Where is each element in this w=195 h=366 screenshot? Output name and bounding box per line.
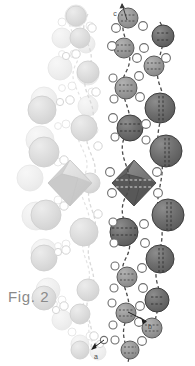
- linker-atom: [109, 321, 117, 329]
- linker-atom: [141, 239, 150, 248]
- light-linker: [66, 96, 74, 104]
- light-atom: [71, 115, 97, 141]
- linker-atom: [108, 299, 116, 307]
- light-linker: [62, 52, 69, 59]
- ghost-atom: [48, 56, 72, 80]
- linker-atom: [139, 22, 148, 31]
- linker-atom: [136, 93, 145, 102]
- medium-atom: [144, 56, 164, 76]
- dark-atom: [145, 288, 169, 312]
- linker-atom: [142, 120, 151, 129]
- linker-atom: [110, 239, 118, 247]
- light-linker: [94, 142, 102, 150]
- linker-atom: [111, 336, 119, 344]
- crystal-structure-diagram: c b a: [0, 0, 195, 366]
- dark-atom: [152, 25, 174, 47]
- linker-atom: [108, 189, 117, 198]
- light-atom: [77, 279, 99, 301]
- linker-atom: [140, 44, 149, 53]
- linker-atom: [109, 114, 118, 123]
- linker-atom: [139, 284, 148, 293]
- dark-atom: [150, 135, 182, 167]
- figure-root: c b a Fig. 2: [0, 0, 195, 366]
- dark-atom: [146, 245, 174, 273]
- dark-atom: [152, 199, 184, 231]
- linker-atom: [111, 133, 119, 141]
- ghost-linker: [62, 120, 70, 128]
- medium-atom: [115, 77, 137, 99]
- light-linker: [62, 246, 70, 254]
- linker-atom: [108, 42, 117, 51]
- light-atom: [70, 218, 98, 246]
- light-atom: [31, 200, 61, 230]
- light-linker: [88, 24, 96, 32]
- linker-atom: [142, 136, 150, 144]
- medium-atom: [117, 267, 137, 287]
- light-atom: [31, 245, 57, 271]
- linker-atom: [110, 284, 118, 292]
- linker-atom: [109, 218, 117, 226]
- linker-atom: [110, 95, 118, 103]
- axis-label-c: c: [113, 10, 117, 17]
- linker-atom: [153, 168, 162, 177]
- light-linker: [54, 248, 61, 255]
- linker-atom: [154, 189, 163, 198]
- light-atom: [70, 304, 90, 324]
- linker-atom: [133, 54, 142, 63]
- ghost-linker: [59, 85, 66, 92]
- linker-atom: [138, 264, 147, 273]
- ghost-linker: [68, 82, 76, 90]
- light-atom: [29, 137, 59, 167]
- light-linker: [90, 332, 98, 340]
- linker-atom: [112, 24, 121, 33]
- dark-atom: [117, 115, 143, 141]
- linker-atom: [109, 74, 117, 82]
- ghost-atom: [17, 165, 43, 191]
- light-atom: [77, 61, 99, 83]
- linker-atom: [140, 220, 149, 229]
- light-linker: [94, 210, 102, 218]
- medium-atom: [114, 38, 134, 58]
- light-linker: [52, 306, 59, 313]
- ghost-atom: [78, 96, 98, 116]
- light-atom: [71, 341, 89, 359]
- linker-atom: [111, 262, 119, 270]
- linker-atom: [138, 337, 147, 346]
- medium-atom: [118, 8, 138, 28]
- axis-label-b: b: [148, 323, 152, 330]
- ghost-linker: [68, 328, 76, 336]
- axis-arrowhead-c: [120, 3, 125, 9]
- linker-atom: [162, 54, 171, 63]
- light-linker: [72, 50, 80, 58]
- axis-label-a: a: [94, 353, 98, 360]
- dark-atom: [145, 93, 175, 123]
- medium-atom: [116, 303, 136, 323]
- light-linker: [60, 302, 68, 310]
- ghost-atom: [52, 28, 72, 48]
- light-linker: [56, 98, 63, 105]
- linker-atom: [106, 168, 115, 177]
- light-atom: [70, 28, 90, 48]
- light-linker: [92, 88, 100, 96]
- linker-atom: [135, 72, 144, 81]
- light-atom: [66, 6, 86, 26]
- light-atom: [28, 96, 56, 124]
- medium-atom: [121, 341, 139, 359]
- ghost-linker: [55, 123, 62, 130]
- figure-caption: Fig. 2: [8, 288, 49, 305]
- ghost-linker: [58, 18, 66, 26]
- linker-atom: [136, 302, 145, 311]
